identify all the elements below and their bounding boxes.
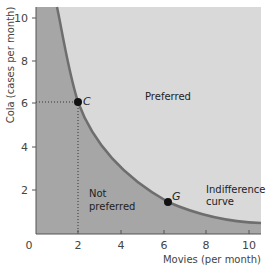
y-axis-title: Cola (cases per month) (5, 7, 16, 124)
indifference-curve-label-line2: curve (206, 196, 234, 207)
indifference-chart: 10 8 6 4 2 0 2 4 6 8 10 Movies (per mont… (0, 0, 268, 266)
x-tick-label-2: 2 (75, 239, 82, 252)
point-c-label: C (83, 95, 91, 108)
x-tick-label-8: 8 (203, 239, 210, 252)
point-g-label: G (172, 190, 181, 203)
y-tick-label-4: 4 (21, 141, 28, 154)
not-preferred-label-line2: preferred (89, 201, 135, 212)
indifference-curve-label-line1: Indifference (206, 184, 266, 195)
y-tick-label-8: 8 (21, 55, 28, 68)
y-tick-label-6: 6 (21, 97, 28, 110)
x-axis-title: Movies (per month) (163, 254, 261, 265)
x-tick-label-6: 6 (161, 239, 168, 252)
y-tick-label-2: 2 (21, 184, 28, 197)
x-tick-label-10: 10 (242, 239, 256, 252)
x-tick-label-4: 4 (118, 239, 125, 252)
point-c (74, 98, 82, 106)
origin-label: 0 (26, 239, 33, 252)
not-preferred-label-line1: Not (89, 188, 107, 199)
y-ticks (32, 18, 36, 190)
point-g (164, 198, 172, 206)
y-tick-label-10: 10 (14, 12, 28, 25)
preferred-label: Preferred (145, 91, 191, 102)
